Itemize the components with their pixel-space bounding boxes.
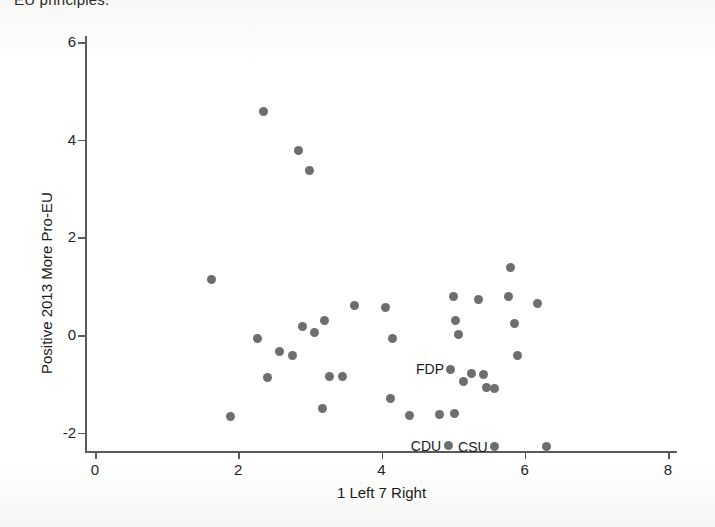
y-tick-label: 6 xyxy=(48,33,76,50)
data-point-csu xyxy=(490,442,499,451)
x-tick-mark xyxy=(238,452,240,459)
data-point xyxy=(474,295,483,304)
data-point xyxy=(320,316,329,325)
data-point xyxy=(298,322,307,331)
y-tick-mark xyxy=(78,140,85,142)
data-point xyxy=(388,334,397,343)
x-tick-label: 8 xyxy=(664,461,672,478)
x-tick-mark xyxy=(95,452,97,459)
point-label-csu: CSU xyxy=(458,439,491,455)
data-point xyxy=(506,263,515,272)
data-point xyxy=(504,292,513,301)
x-tick-mark xyxy=(382,452,384,459)
y-tick-mark xyxy=(78,237,85,239)
point-label-cdu: CDU xyxy=(411,438,444,454)
data-point xyxy=(305,166,314,175)
data-point xyxy=(310,328,319,337)
data-point xyxy=(275,347,284,356)
y-tick-mark xyxy=(78,433,85,435)
y-axis-line xyxy=(85,36,87,452)
data-point xyxy=(533,299,542,308)
y-tick-label: 4 xyxy=(48,131,76,148)
data-point xyxy=(542,442,551,451)
data-point xyxy=(338,372,347,381)
data-point xyxy=(459,377,468,386)
y-tick-mark xyxy=(78,335,85,337)
data-point xyxy=(450,409,459,418)
x-tick-label: 2 xyxy=(234,461,242,478)
data-point xyxy=(325,372,334,381)
data-point xyxy=(288,351,297,360)
y-tick-label: -2 xyxy=(48,424,76,441)
data-point xyxy=(226,412,235,421)
plot-area: -20246 02468 FDPCDUCSU 1 Left 7 Right Po… xyxy=(0,0,715,527)
data-point xyxy=(259,107,268,116)
data-point xyxy=(490,384,499,393)
data-point xyxy=(451,316,460,325)
data-point xyxy=(449,292,458,301)
data-point xyxy=(263,373,272,382)
y-axis-title: Positive 2013 More Pro-EU xyxy=(38,192,55,374)
x-tick-label: 0 xyxy=(91,461,99,478)
data-point xyxy=(381,303,390,312)
data-point xyxy=(386,394,395,403)
x-axis-title: 1 Left 7 Right xyxy=(24,484,715,501)
data-point-fdp xyxy=(446,365,455,374)
data-point xyxy=(318,404,327,413)
data-point xyxy=(207,275,216,284)
y-tick-mark xyxy=(78,42,85,44)
scatter-plot-figure: EU principles. -20246 02468 FDPCDUCSU 1 … xyxy=(0,0,715,527)
point-label-fdp: FDP xyxy=(416,361,447,377)
data-point xyxy=(350,301,359,310)
data-point xyxy=(513,351,522,360)
data-point xyxy=(405,411,414,420)
x-tick-label: 4 xyxy=(377,461,385,478)
data-point xyxy=(294,146,303,155)
data-point xyxy=(435,410,444,419)
data-point xyxy=(467,369,476,378)
data-point xyxy=(253,334,262,343)
x-tick-mark xyxy=(525,452,527,459)
x-tick-label: 6 xyxy=(521,461,529,478)
data-point xyxy=(479,370,488,379)
data-point-cdu xyxy=(444,441,453,450)
data-point xyxy=(454,330,463,339)
data-point xyxy=(510,319,519,328)
x-tick-mark xyxy=(668,452,670,459)
